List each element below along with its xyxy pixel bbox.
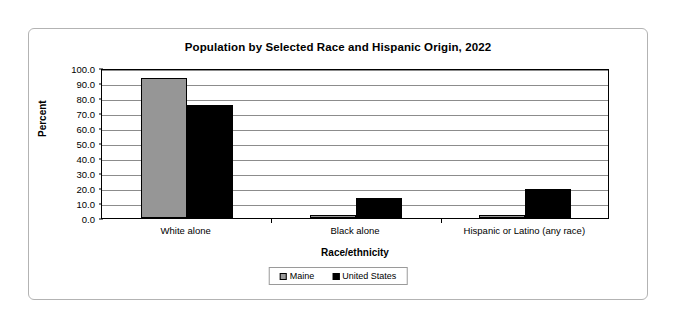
bar-group	[141, 70, 233, 218]
y-axis-tick-labels: 0.010.020.030.040.050.060.070.080.090.01…	[55, 69, 99, 219]
bar-united-states[interactable]	[187, 105, 233, 218]
bar-maine[interactable]	[479, 215, 525, 218]
bar-maine[interactable]	[141, 78, 187, 218]
x-axis-tick-mark	[271, 218, 272, 223]
y-axis-title: Percent	[37, 100, 48, 137]
bars-layer	[102, 70, 608, 218]
x-axis-tick-label: Black alone	[330, 225, 379, 236]
y-axis-tick-label: 70.0	[77, 109, 96, 120]
y-axis-tick-label: 10.0	[77, 199, 96, 210]
y-axis-tick-label: 40.0	[77, 154, 96, 165]
bar-group	[310, 70, 402, 218]
y-axis-tick-label: 60.0	[77, 124, 96, 135]
y-axis-tick-label: 30.0	[77, 169, 96, 180]
y-axis-tick-label: 90.0	[77, 79, 96, 90]
y-axis-tick-label: 100.0	[71, 64, 95, 75]
x-axis-tick-labels: White aloneBlack aloneHispanic or Latino…	[101, 225, 609, 239]
bar-united-states[interactable]	[356, 198, 402, 218]
bar-maine[interactable]	[310, 215, 356, 218]
x-axis-tick-label: Hispanic or Latino (any race)	[464, 225, 585, 236]
legend-swatch-icon	[280, 273, 287, 280]
bar-united-states[interactable]	[525, 189, 571, 218]
x-axis-tick-mark	[441, 218, 442, 223]
y-axis-tick-label: 20.0	[77, 184, 96, 195]
legend-item-maine[interactable]: Maine	[280, 271, 315, 281]
legend-item-united-states[interactable]: United States	[332, 271, 396, 281]
bar-group	[479, 70, 571, 218]
legend-label: United States	[342, 271, 396, 281]
chart-frame: Population by Selected Race and Hispanic…	[28, 28, 648, 300]
legend-swatch-icon	[332, 273, 339, 280]
chart-title: Population by Selected Race and Hispanic…	[29, 41, 647, 53]
legend-label: Maine	[290, 271, 315, 281]
plot-area	[101, 69, 609, 219]
y-axis-tick-label: 80.0	[77, 94, 96, 105]
x-axis-title: Race/ethnicity	[101, 247, 609, 258]
y-axis-tick-label: 50.0	[77, 139, 96, 150]
y-axis-tick-label: 0.0	[82, 214, 95, 225]
x-axis-tick-label: White alone	[161, 225, 211, 236]
chart-legend: MaineUnited States	[269, 267, 408, 285]
